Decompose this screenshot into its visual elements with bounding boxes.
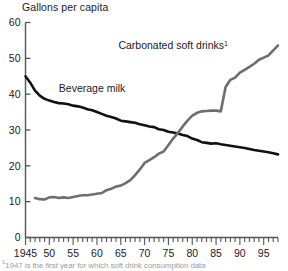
chart-footnote: 11947 is the first year for which soft d…	[2, 259, 206, 270]
footnote-text: 1947 is the first year for which soft dr…	[5, 261, 205, 270]
y-axis: 0102030405060	[9, 16, 31, 243]
x-tick-label: 1945	[14, 247, 38, 259]
series-label-carbonated-soft-drinks: Carbonated soft drinks1	[118, 39, 228, 51]
y-tick-label: 60	[9, 16, 21, 28]
x-tick-label: 80	[186, 247, 198, 259]
y-tick-label: 30	[9, 124, 21, 136]
series-line	[35, 45, 278, 199]
data-series-group	[26, 45, 279, 199]
x-tick-label: 55	[67, 247, 79, 259]
x-tick-label: 75	[163, 247, 175, 259]
y-tick-label: 10	[9, 195, 21, 207]
x-axis: 194550556065707580859095	[14, 238, 278, 259]
x-tick-label: 85	[210, 247, 222, 259]
chart-plot: 0102030405060 194550556065707580859095 B…	[0, 0, 288, 271]
y-tick-label: 20	[9, 160, 21, 172]
x-tick-label: 70	[139, 247, 151, 259]
series-annotations: Beverage milkCarbonated soft drinks1	[59, 39, 228, 94]
x-tick-label: 90	[234, 247, 246, 259]
x-tick-label: 60	[91, 247, 103, 259]
x-tick-label: 65	[115, 247, 127, 259]
x-tick-label: 50	[43, 247, 55, 259]
chart-container: Gallons per capita 0102030405060 1945505…	[0, 0, 288, 271]
y-tick-label: 40	[9, 88, 21, 100]
y-tick-label: 0	[15, 231, 21, 243]
y-tick-label: 50	[9, 52, 21, 64]
series-label-beverage-milk: Beverage milk	[59, 82, 126, 94]
x-tick-label: 95	[258, 247, 270, 259]
